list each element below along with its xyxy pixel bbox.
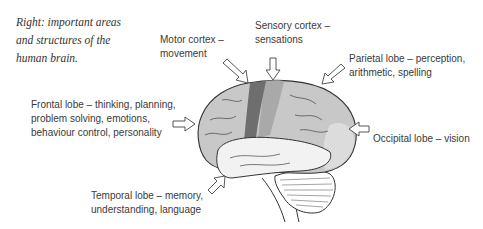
brain-diagram [0,0,483,229]
arrow-icon-parietal [322,64,345,84]
arrow-icon-temporal [208,176,225,194]
cerebellum [275,170,335,213]
arrow-icon-frontal [173,117,195,131]
arrow-icon-motor [223,59,248,83]
arrow-icon-sensory [266,58,280,80]
